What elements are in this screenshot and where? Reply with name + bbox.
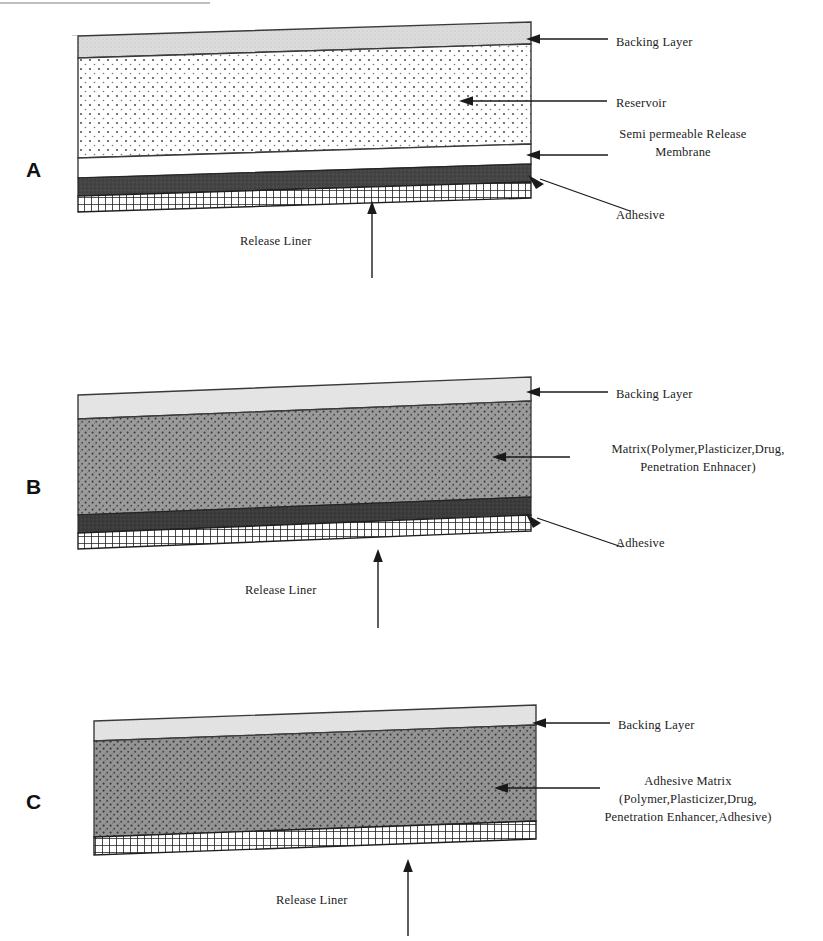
- callout-adhesive-b: Adhesive: [616, 534, 665, 552]
- patch-stack-b: [70, 375, 540, 550]
- layer-matrix-b: [78, 401, 531, 515]
- panel-letter-b: B: [26, 475, 41, 499]
- panel-letter-c: C: [26, 790, 41, 814]
- callout-semipermeable-membrane-a: Semi permeable Release Membrane: [558, 125, 808, 161]
- patch-stack-c: [88, 705, 544, 857]
- callout-backing-layer-a: Backing Layer: [616, 33, 693, 51]
- callout-matrix-b: Matrix(Polymer,Plasticizer,Drug, Penetra…: [576, 440, 820, 476]
- callout-reservoir-a: Reservoir: [616, 94, 666, 112]
- callout-release-liner-a: Release Liner: [240, 234, 312, 249]
- callout-release-liner-b: Release Liner: [245, 583, 317, 598]
- leader-release-liner-c: [400, 858, 416, 938]
- scan-artifact-top: [0, 2, 210, 4]
- callout-backing-layer-b: Backing Layer: [616, 385, 693, 403]
- callout-adhesive-a: Adhesive: [616, 206, 665, 224]
- leader-release-liner-b: [370, 548, 386, 630]
- callout-release-liner-c: Release Liner: [276, 893, 348, 908]
- layer-reservoir-a: [78, 44, 531, 158]
- layer-adhesive-matrix-c: [94, 725, 536, 837]
- callout-adhesive-matrix-c: Adhesive Matrix (Polymer,Plasticizer,Dru…: [556, 772, 820, 826]
- callout-backing-layer-c: Backing Layer: [618, 716, 695, 734]
- panel-letter-a: A: [26, 158, 41, 182]
- patch-stack-a: [70, 22, 540, 212]
- leader-release-liner-a: [364, 200, 380, 280]
